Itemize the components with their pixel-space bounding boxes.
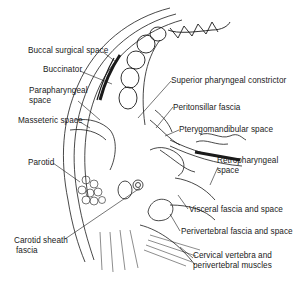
label-text-line2: perivertebral muscles xyxy=(193,261,272,271)
label-text: Buccal surgical space xyxy=(28,46,108,55)
label-parotid: Parotid xyxy=(28,158,54,168)
label-buccal-surgical-space: Buccal surgical space xyxy=(28,46,108,56)
label-cervical-vertebra: Cervical vertebra and perivertebral musc… xyxy=(193,251,272,270)
label-text-line1: Retropharyngeal xyxy=(217,156,278,166)
label-carotid-sheath-fascia: Carotid sheath fascia xyxy=(14,236,68,255)
label-text: Parotid xyxy=(28,158,54,167)
vertebra xyxy=(148,199,173,220)
label-text: Perivertebral fascia and space xyxy=(181,227,293,236)
label-peritonsillar-fascia: Peritonsillar fascia xyxy=(173,103,240,113)
label-superior-pharyngeal-constrictor: Superior pharyngeal constrictor xyxy=(171,76,286,86)
label-buccinator: Buccinator xyxy=(43,65,82,75)
label-pterygomandibular-space: Pterygomandibular space xyxy=(179,125,273,135)
label-text-line2: space xyxy=(217,166,278,176)
anatomy-diagram: Buccal surgical space Buccinator Parapha… xyxy=(0,0,298,283)
label-text-line2: space xyxy=(29,96,88,106)
label-text: Pterygomandibular space xyxy=(179,125,273,134)
label-text-line1: Parapharyngeal xyxy=(29,86,88,96)
label-text: Masseteric space xyxy=(18,116,83,125)
label-text: Buccinator xyxy=(43,65,82,74)
label-text-line2: fascia xyxy=(14,246,68,256)
label-perivertebral-fascia-and-space: Perivertebral fascia and space xyxy=(181,227,293,237)
label-text: Visceral fascia and space xyxy=(189,205,283,214)
label-masseteric-space: Masseteric space xyxy=(18,116,83,126)
label-text-line1: Carotid sheath xyxy=(14,236,68,246)
label-text: Superior pharyngeal constrictor xyxy=(171,76,286,85)
label-text-line1: Cervical vertebra and xyxy=(193,251,272,261)
label-text: Peritonsillar fascia xyxy=(173,103,240,112)
label-visceral-fascia-and-space: Visceral fascia and space xyxy=(189,205,283,215)
teeth xyxy=(119,22,230,109)
label-retropharyngeal-space: Retropharyngeal space xyxy=(217,156,278,175)
parotid-gland xyxy=(78,176,106,205)
label-parapharyngeal-space: Parapharyngeal space xyxy=(29,86,88,105)
